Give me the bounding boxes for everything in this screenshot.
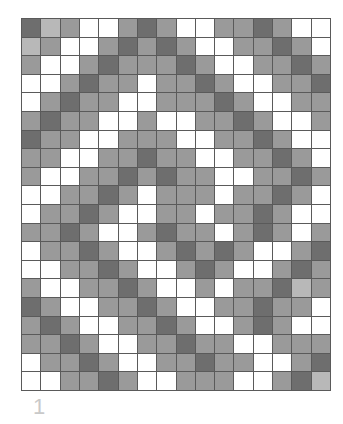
heatmap-cell <box>61 372 79 390</box>
heatmap-cell <box>99 224 117 242</box>
heatmap-cell <box>99 93 117 111</box>
heatmap-cell <box>99 131 117 149</box>
heatmap-cell <box>80 335 98 353</box>
heatmap-cell <box>22 149 40 167</box>
heatmap-cell <box>215 131 233 149</box>
heatmap-cell <box>215 261 233 279</box>
heatmap-cell <box>138 335 156 353</box>
heatmap-cell <box>41 335 59 353</box>
heatmap-cell <box>234 261 252 279</box>
heatmap-cell <box>80 75 98 93</box>
heatmap-cell <box>196 335 214 353</box>
heatmap-cell <box>273 298 291 316</box>
heatmap-cell <box>292 298 310 316</box>
heatmap-cell <box>177 224 195 242</box>
heatmap-cell <box>196 242 214 260</box>
heatmap-cell <box>99 205 117 223</box>
heatmap-cell <box>22 354 40 372</box>
heatmap-cell <box>177 335 195 353</box>
heatmap-cell <box>292 261 310 279</box>
heatmap-cell <box>138 242 156 260</box>
heatmap-cell <box>234 298 252 316</box>
heatmap-cell <box>157 168 175 186</box>
heatmap-cell <box>312 149 330 167</box>
heatmap-cell <box>177 112 195 130</box>
heatmap-cell <box>254 19 272 37</box>
heatmap-cell <box>119 93 137 111</box>
heatmap-cell <box>273 317 291 335</box>
heatmap-cell <box>196 354 214 372</box>
heatmap-cell <box>138 149 156 167</box>
heatmap-cell <box>138 372 156 390</box>
heatmap-cell <box>234 168 252 186</box>
heatmap-cell <box>292 224 310 242</box>
heatmap-cell <box>41 279 59 297</box>
heatmap-cell <box>234 149 252 167</box>
heatmap-cell <box>157 38 175 56</box>
heatmap-cell <box>99 112 117 130</box>
heatmap-cell <box>61 354 79 372</box>
heatmap-cell <box>177 354 195 372</box>
heatmap-cell <box>22 93 40 111</box>
heatmap-cell <box>312 372 330 390</box>
heatmap-cell <box>41 261 59 279</box>
heatmap-cell <box>80 112 98 130</box>
heatmap-cell <box>41 224 59 242</box>
heatmap-cell <box>61 186 79 204</box>
heatmap-cell <box>157 224 175 242</box>
heatmap-cell <box>254 261 272 279</box>
heatmap-cell <box>22 205 40 223</box>
heatmap-cell <box>215 354 233 372</box>
heatmap-cell <box>177 261 195 279</box>
heatmap-cell <box>177 131 195 149</box>
heatmap-cell <box>80 205 98 223</box>
heatmap-cell <box>99 354 117 372</box>
heatmap-cell <box>119 372 137 390</box>
heatmap-cell <box>215 149 233 167</box>
heatmap-cell <box>196 224 214 242</box>
heatmap-cell <box>177 149 195 167</box>
heatmap-cell <box>80 224 98 242</box>
heatmap-cell <box>292 168 310 186</box>
heatmap-cell <box>22 335 40 353</box>
heatmap-cell <box>119 19 137 37</box>
heatmap-cell <box>292 38 310 56</box>
heatmap-cell <box>157 205 175 223</box>
heatmap-cell <box>273 205 291 223</box>
heatmap-cell <box>61 298 79 316</box>
heatmap-cell <box>80 149 98 167</box>
heatmap-cell <box>254 38 272 56</box>
heatmap-cell <box>234 317 252 335</box>
heatmap-cell <box>119 168 137 186</box>
heatmap-cell <box>273 224 291 242</box>
heatmap-cell <box>80 317 98 335</box>
heatmap-cell <box>234 354 252 372</box>
heatmap-cell <box>138 93 156 111</box>
heatmap-cell <box>292 317 310 335</box>
heatmap-cell <box>273 186 291 204</box>
heatmap-cell <box>22 112 40 130</box>
heatmap-cell <box>61 93 79 111</box>
heatmap-cell <box>61 242 79 260</box>
heatmap-cell <box>273 75 291 93</box>
heatmap-cell <box>157 75 175 93</box>
heatmap-cell <box>99 335 117 353</box>
heatmap-cell <box>273 261 291 279</box>
heatmap-cell <box>292 242 310 260</box>
heatmap-cell <box>80 261 98 279</box>
heatmap-cell <box>41 19 59 37</box>
heatmap-cell <box>61 168 79 186</box>
heatmap-cell <box>119 224 137 242</box>
heatmap-cell <box>234 224 252 242</box>
heatmap-cell <box>273 354 291 372</box>
heatmap-cell <box>138 131 156 149</box>
heatmap-cell <box>41 93 59 111</box>
heatmap-cell <box>22 75 40 93</box>
heatmap-cell <box>119 56 137 74</box>
heatmap-cell <box>273 372 291 390</box>
heatmap-cell <box>157 335 175 353</box>
heatmap-cell <box>41 112 59 130</box>
heatmap-cell <box>119 261 137 279</box>
heatmap-cell <box>196 186 214 204</box>
heatmap-cell <box>254 93 272 111</box>
